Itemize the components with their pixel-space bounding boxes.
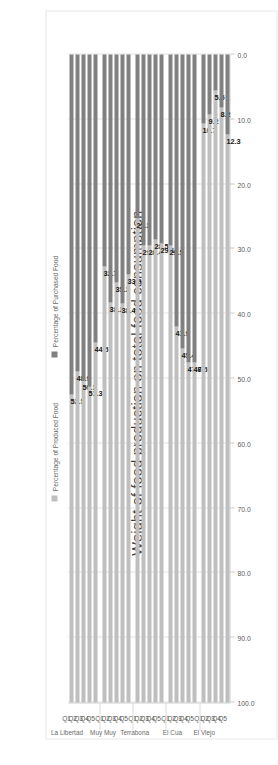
bar-segment-produced (136, 54, 140, 218)
bar-row (70, 54, 74, 702)
group-separator (199, 702, 200, 730)
category-tick-label: Q5 (185, 715, 194, 722)
bar-row (142, 54, 146, 702)
bar-segment-produced (87, 54, 91, 386)
value-tick-label: 10.0 (238, 116, 251, 123)
legend-item[interactable]: Percentage of Produced Food (51, 403, 58, 501)
bar-segment-purchased (81, 380, 85, 702)
bar-segment-produced (142, 54, 146, 245)
bar-row (175, 54, 179, 702)
value-tick-mark (231, 53, 235, 54)
value-tick-mark (231, 312, 235, 313)
bar-row (153, 54, 157, 702)
bar-segment-purchased (75, 371, 79, 702)
bar-segment-purchased (126, 274, 130, 702)
bar-row (208, 54, 212, 702)
bar-segment-produced (159, 54, 163, 243)
value-tick-label: 20.0 (238, 181, 251, 188)
bar-row (114, 54, 118, 702)
plot-area: 52.548.950.351.344.532.738.235.238.433.9… (69, 54, 231, 702)
bar-segment-produced (93, 54, 97, 342)
bar-segment-purchased (181, 348, 185, 702)
chart-figure: Weight of food production on total food … (33, 0, 256, 765)
bar-segment-produced (214, 54, 218, 90)
group-label: La Libertad (51, 729, 83, 736)
bar-segment-purchased (103, 266, 107, 702)
bar-segment-produced (126, 54, 130, 274)
bar-segment-purchased (208, 114, 212, 702)
bar-segment-purchased (220, 107, 224, 702)
value-tick-label: 70.0 (238, 505, 251, 512)
group-separator (133, 702, 134, 730)
legend-label: Percentage of Produced Food (51, 403, 58, 491)
bar-segment-purchased (109, 302, 113, 702)
value-axis: 0.010.020.030.040.050.060.070.080.090.01… (231, 54, 256, 702)
bar-segment-purchased (175, 326, 179, 702)
bar-segment-purchased (169, 245, 173, 702)
bar-segment-produced (81, 54, 85, 380)
bar-segment-purchased (159, 243, 163, 702)
bar-segment-purchased (93, 342, 97, 702)
bar-row (169, 54, 173, 702)
bar-segment-purchased (202, 123, 206, 702)
bar-segment-purchased (136, 218, 140, 702)
bar-segment-produced (70, 54, 74, 394)
bar-segment-purchased (114, 282, 118, 702)
bar-segment-produced (187, 54, 191, 362)
chart-legend: Percentage of Produced FoodPercentage of… (45, 54, 65, 702)
bar-segment-produced (202, 54, 206, 123)
bar-segment-produced (193, 54, 197, 362)
bar-segment-purchased (148, 245, 152, 702)
legend-item[interactable]: Percentage of Purchased Food (51, 255, 58, 356)
bar-row (126, 54, 130, 702)
bar-row (187, 54, 191, 702)
value-tick-label: 50.0 (238, 375, 251, 382)
value-tick-mark (231, 701, 235, 702)
bar-segment-purchased (187, 362, 191, 702)
bar-segment-produced (226, 54, 230, 134)
bar-segment-produced (109, 54, 113, 302)
bar-segment-produced (181, 54, 185, 348)
bar-row (87, 54, 91, 702)
legend-label: Percentage of Purchased Food (51, 255, 58, 346)
bar-segment-produced (208, 54, 212, 114)
bar-segment-purchased (153, 239, 157, 702)
bar-segment-produced (220, 54, 224, 107)
value-tick-label: 30.0 (238, 245, 251, 252)
legend-swatch-icon (52, 495, 58, 501)
group-separator (100, 702, 101, 730)
bar-row (181, 54, 185, 702)
value-tick-label: 90.0 (238, 634, 251, 641)
value-tick-mark (231, 377, 235, 378)
bar-row (159, 54, 163, 702)
bar-row (103, 54, 107, 702)
category-axis: Q1Q2Q3Q4Q5Q1Q2Q3Q4Q5Q1Q2Q3Q4Q5Q1Q2Q3Q4Q5… (69, 702, 231, 765)
legend-swatch-icon (52, 351, 58, 357)
bar-segment-produced (153, 54, 157, 239)
value-tick-mark (231, 118, 235, 119)
group-label: Terrabona (120, 729, 149, 736)
bar-segment-purchased (226, 134, 230, 702)
bar-segment-purchased (142, 245, 146, 702)
bar-segment-purchased (214, 90, 218, 702)
value-tick-mark (231, 442, 235, 443)
value-tick-label: 100.0 (238, 699, 255, 706)
category-tick-label: Q5 (86, 715, 95, 722)
bar-row (148, 54, 152, 702)
value-tick-label: 40.0 (238, 310, 251, 317)
value-tick-mark (231, 571, 235, 572)
bar-row (109, 54, 113, 702)
bar-segment-produced (103, 54, 107, 266)
bar-row (220, 54, 224, 702)
bar-row (202, 54, 206, 702)
bar-segment-produced (175, 54, 179, 326)
value-tick-label: 80.0 (238, 569, 251, 576)
group-label: Muy Muy (90, 729, 116, 736)
bar-segment-purchased (87, 386, 91, 702)
bar-segment-produced (148, 54, 152, 245)
bar-segment-produced (114, 54, 118, 282)
bar-row (214, 54, 218, 702)
category-tick-label: Q5 (119, 715, 128, 722)
value-tick-mark (231, 183, 235, 184)
group-separator (166, 702, 167, 730)
